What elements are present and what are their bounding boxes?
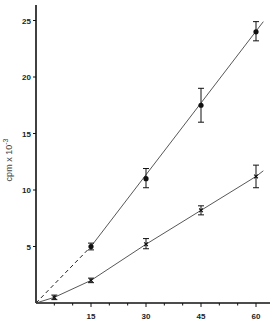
chart: 510152025 15304560 cpm x 10-3 bbox=[0, 0, 279, 334]
y-axis: 510152025 bbox=[22, 5, 36, 303]
x-tick-label: 15 bbox=[87, 312, 96, 321]
x-tick-label: 60 bbox=[252, 312, 261, 321]
series-upper bbox=[36, 22, 263, 303]
y-tick-label: 15 bbox=[22, 130, 31, 139]
series-lower bbox=[36, 165, 263, 303]
y-tick-label: 5 bbox=[27, 243, 32, 252]
data-point bbox=[198, 103, 203, 108]
y-axis-title: cpm x 10-3 bbox=[2, 139, 14, 182]
x-axis: 15304560 bbox=[36, 303, 270, 321]
data-point bbox=[88, 244, 93, 249]
y-tick-label: 10 bbox=[22, 186, 31, 195]
y-tick-label: 25 bbox=[22, 17, 31, 26]
x-tick-label: 30 bbox=[142, 312, 151, 321]
y-tick-label: 20 bbox=[22, 73, 31, 82]
data-point bbox=[253, 29, 258, 34]
x-tick-label: 45 bbox=[197, 312, 206, 321]
data-point bbox=[143, 176, 148, 181]
